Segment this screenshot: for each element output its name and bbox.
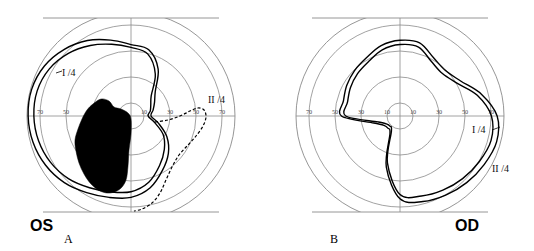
perimetry-chart-od: 70 50 30 10 10 30 50 70 I /4 II /4 OD B bbox=[267, 0, 534, 251]
perimetry-panel-os: 70 50 30 10 10 30 50 70 I /4 II /4 OS A bbox=[0, 0, 267, 251]
isopter-label-I-4-od: I /4 bbox=[472, 124, 486, 135]
grid-group-od bbox=[296, 12, 504, 220]
tick-right-30: 30 bbox=[167, 108, 173, 115]
isopter-label-I-4-os: I /4 bbox=[62, 67, 76, 78]
tick-right-10: 10 bbox=[141, 108, 147, 115]
tick-right-30: 30 bbox=[436, 108, 442, 115]
panel-letter-b: B bbox=[330, 232, 338, 246]
scotoma-os bbox=[75, 99, 131, 193]
tick-right-50: 50 bbox=[462, 108, 468, 115]
grid-group-os bbox=[27, 12, 235, 220]
eye-label-os: OS bbox=[30, 217, 53, 234]
tick-left-30: 30 bbox=[358, 108, 364, 115]
isopter-label-II-4-od: II /4 bbox=[492, 163, 509, 174]
perimetry-panel-od: 70 50 30 10 10 30 50 70 I /4 II /4 OD B bbox=[267, 0, 534, 251]
tick-right-10: 10 bbox=[410, 108, 416, 115]
panel-letter-a: A bbox=[64, 232, 73, 246]
tick-right-70: 70 bbox=[219, 108, 225, 115]
tick-left-50: 50 bbox=[332, 108, 338, 115]
tick-left-70: 70 bbox=[37, 108, 43, 115]
isopter-label-II-4-os: II /4 bbox=[208, 94, 225, 105]
eye-label-od: OD bbox=[455, 217, 479, 234]
tick-left-50: 50 bbox=[63, 108, 69, 115]
tick-left-70: 70 bbox=[306, 108, 312, 115]
perimetry-figure: 70 50 30 10 10 30 50 70 I /4 II /4 OS A bbox=[0, 0, 534, 251]
perimetry-chart-os: 70 50 30 10 10 30 50 70 I /4 II /4 OS A bbox=[0, 0, 267, 251]
tick-left-10: 10 bbox=[384, 108, 390, 115]
isopter-I-4-od bbox=[344, 44, 493, 197]
